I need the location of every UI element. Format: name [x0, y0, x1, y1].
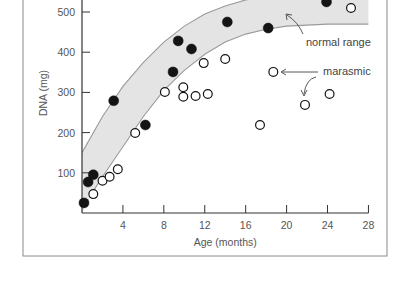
data-point-marasmic [131, 129, 140, 138]
data-point-marasmic [161, 88, 170, 97]
x-tick-label: 12 [199, 219, 211, 231]
x-tick-label: 16 [240, 219, 252, 231]
data-point-marasmic [301, 101, 310, 110]
data-point-marasmic [256, 121, 265, 130]
data-point-normal [263, 23, 273, 33]
data-point-normal [187, 44, 197, 54]
y-tick-label: 100 [57, 167, 75, 179]
data-point-marasmic [199, 59, 208, 68]
data-point-marasmic [325, 90, 334, 99]
data-point-marasmic [105, 172, 114, 181]
x-tick-label: 20 [281, 219, 293, 231]
normal-range-band [82, 0, 368, 213]
y-tick-label: 500 [57, 6, 75, 18]
x-tick-label: 4 [120, 219, 126, 231]
y-tick-label: 400 [57, 46, 75, 58]
data-point-normal [88, 170, 98, 180]
scatter-chart: 481216202428100200300400500Age (months)D… [0, 0, 399, 306]
data-point-marasmic [347, 4, 356, 13]
x-tick-label: 24 [322, 219, 334, 231]
data-point-normal [173, 36, 183, 46]
data-point-marasmic [269, 68, 278, 77]
data-point-marasmic [203, 90, 212, 99]
data-point-normal [168, 67, 178, 77]
annotation-normal-range: normal range [306, 36, 371, 48]
y-tick-label: 300 [57, 86, 75, 98]
band-fill [82, 0, 368, 213]
data-point-normal [79, 198, 89, 208]
y-tick-label: 200 [57, 127, 75, 139]
data-point-marasmic [179, 83, 188, 92]
x-tick-label: 8 [161, 219, 167, 231]
data-point-marasmic [191, 92, 200, 101]
data-point-normal [109, 96, 119, 106]
annotation-marasmic: marasmic [323, 65, 371, 77]
data-point-marasmic [179, 92, 188, 101]
data-point-marasmic [221, 55, 230, 64]
data-point-normal [222, 17, 232, 27]
x-axis-title: Age (months) [194, 236, 257, 248]
y-axis-title: DNA (mg) [37, 70, 49, 116]
x-tick-label: 28 [363, 219, 375, 231]
data-point-marasmic [113, 165, 122, 174]
data-point-marasmic [89, 190, 98, 199]
data-point-normal [140, 120, 150, 130]
